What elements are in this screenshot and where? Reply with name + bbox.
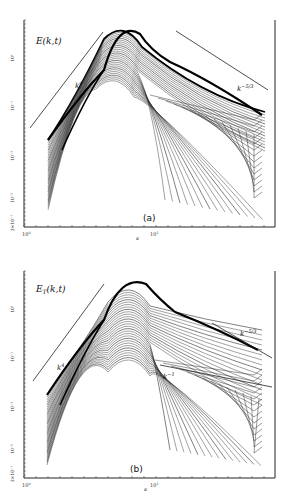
spectra-curves-a: [48, 31, 265, 220]
panel-b: 10¹10⁻¹10⁻³10⁻⁵3×10⁻⁷ ET(k,t) k4 k−1 k−5…: [10, 271, 275, 492]
svg-text:10⁻¹: 10⁻¹: [10, 101, 15, 111]
svg-text:10¹: 10¹: [10, 54, 15, 62]
x-tick-10-1-b: 101: [150, 482, 159, 488]
panel-label-b: (b): [130, 464, 143, 474]
svg-text:3×10⁻⁷: 3×10⁻⁷: [10, 215, 15, 232]
svg-text:10¹: 10¹: [10, 305, 15, 313]
figure: 10¹10⁻¹10⁻³10⁻⁵3×10⁻⁷ E(k,t) k4 k−5/3 (a…: [0, 0, 292, 504]
x-tick-10-0-b: 100: [22, 482, 31, 488]
x-label-a: κ: [135, 235, 140, 241]
svg-text:3×10⁻⁷: 3×10⁻⁷: [10, 466, 15, 483]
x-tick-10-1-a: 101: [150, 231, 159, 237]
title-a: E(k,t): [35, 36, 62, 46]
panel-label-a: (a): [143, 213, 156, 223]
svg-text:10⁻³: 10⁻³: [10, 151, 15, 161]
spectra-curves-b: [47, 282, 262, 465]
k-5-3-label-a: k−5/3: [237, 83, 254, 93]
panel-a: 10¹10⁻¹10⁻³10⁻⁵3×10⁻⁷ E(k,t) k4 k−5/3 (a…: [10, 20, 275, 241]
svg-text:10⁻¹: 10⁻¹: [10, 352, 15, 362]
k-5-3-reference-line-b: [212, 323, 272, 358]
x-tick-10-0-a: 100: [22, 231, 31, 237]
svg-text:10⁻⁵: 10⁻⁵: [10, 193, 15, 203]
x-label-b: κ: [143, 486, 148, 492]
y-ticks-b: 10¹10⁻¹10⁻³10⁻⁵3×10⁻⁷: [10, 271, 264, 482]
k-1-label-b: k−1: [163, 371, 175, 381]
k-5-3-label-b: k−5/3: [240, 328, 257, 338]
svg-text:10⁻⁵: 10⁻⁵: [10, 444, 15, 454]
svg-text:10⁻³: 10⁻³: [10, 402, 15, 412]
title-b: ET(k,t): [35, 284, 66, 295]
